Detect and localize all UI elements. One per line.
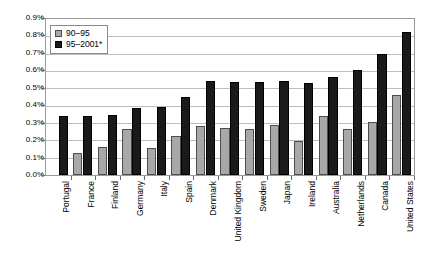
y-axis-tick-label: 0.5% <box>4 84 44 92</box>
x-axis-tick-label: Canada <box>381 181 390 211</box>
x-axis-tick-label-text: Ireland <box>308 181 317 207</box>
bar <box>220 128 229 175</box>
bar <box>255 82 264 175</box>
bar-group <box>193 19 218 175</box>
x-axis-tick-label-text: Italy <box>160 181 169 197</box>
x-axis-tick-label: Australia <box>332 181 341 214</box>
bar-group <box>316 19 341 175</box>
x-axis-tick-mark <box>193 176 194 180</box>
x-axis-tick-label-text: United Kingdom <box>234 181 243 241</box>
bar <box>157 107 166 175</box>
bar <box>206 81 215 175</box>
bar <box>196 126 205 175</box>
x-axis-tick-mark <box>218 176 219 180</box>
x-axis-tick-mark <box>71 176 72 180</box>
x-axis-tick-mark <box>267 176 268 180</box>
bar <box>73 153 82 175</box>
legend-item-1: 95–2001* <box>55 39 102 50</box>
x-axis-tick-label: Italy <box>160 181 169 197</box>
legend: 90–95 95–2001* <box>50 25 108 54</box>
x-axis-tick-label-text: United States <box>406 181 415 232</box>
bar <box>83 116 92 175</box>
bar <box>270 125 279 175</box>
legend-label-1: 95–2001* <box>66 40 102 49</box>
x-axis-tick-mark <box>316 176 317 180</box>
y-axis-tick-label: 0.7% <box>4 49 44 57</box>
bar-group <box>242 19 267 175</box>
bar-group <box>267 19 292 175</box>
x-axis-tick-mark <box>242 176 243 180</box>
bar-chart: 0.9%0.8%0.7%0.6%0.5%0.4%0.3%0.2%0.1%0.0%… <box>0 0 425 256</box>
y-axis-tick-label: 0.2% <box>4 136 44 144</box>
x-axis-tick-label-text: Spain <box>185 181 194 203</box>
bar <box>377 54 386 175</box>
x-axis-tick-mark <box>340 176 341 180</box>
x-axis-tick-mark <box>144 176 145 180</box>
bar <box>304 83 313 175</box>
x-axis-tick-label: Portugal <box>62 181 71 213</box>
x-axis-tick-label: Ireland <box>308 181 317 207</box>
y-axis-tick-label: 0.4% <box>4 101 44 109</box>
bar <box>181 97 190 175</box>
x-axis-tick-mark <box>120 176 121 180</box>
bar-group <box>291 19 316 175</box>
bar-group <box>169 19 194 175</box>
bar-group <box>218 19 243 175</box>
legend-item-0: 90–95 <box>55 28 102 39</box>
x-axis-tick-label-text: Canada <box>381 181 390 211</box>
x-axis-tick-label: Spain <box>185 181 194 203</box>
bar-group <box>340 19 365 175</box>
x-axis-tick-mark <box>291 176 292 180</box>
x-axis-tick-label-text: Denmark <box>209 181 218 215</box>
x-axis-tick-label-text: Australia <box>332 181 341 214</box>
x-axis-tick-label-text: Japan <box>283 181 292 204</box>
bar <box>294 141 303 175</box>
y-axis-tick-label: 0.0% <box>4 171 44 179</box>
bar <box>122 129 131 176</box>
x-axis-tick-mark <box>95 176 96 180</box>
bar-group <box>365 19 390 175</box>
x-axis-labels: PortugalFranceFinlandGermanyItalySpainDe… <box>46 181 414 256</box>
x-axis-tick-label: Denmark <box>209 181 218 215</box>
x-axis-tick-label-text: Germany <box>136 181 145 216</box>
bar <box>402 32 411 175</box>
x-axis-tick-mark <box>414 176 415 180</box>
x-axis-tick-label-text: France <box>87 181 96 207</box>
x-axis-tick-label: United States <box>406 181 415 232</box>
bar <box>230 82 239 175</box>
y-axis-tick-label: 0.6% <box>4 66 44 74</box>
bar <box>328 77 337 175</box>
x-axis-tick-mark <box>389 176 390 180</box>
x-axis-tick-label-text: Finland <box>111 181 120 209</box>
x-axis-tick-label-text: Netherlands <box>357 181 366 227</box>
bar <box>98 147 107 175</box>
bar <box>319 116 328 175</box>
x-axis-tick-label-text: Sweden <box>259 181 268 212</box>
legend-swatch-icon-95-2001 <box>55 41 62 48</box>
bar <box>132 108 141 175</box>
y-axis-tick-label: 0.1% <box>4 154 44 162</box>
bar <box>59 116 68 175</box>
x-axis-tick-label: Finland <box>111 181 120 209</box>
bar <box>392 95 401 175</box>
bar <box>368 122 377 175</box>
x-axis-tick-mark <box>169 176 170 180</box>
legend-swatch-icon-90-95 <box>55 30 62 37</box>
x-axis-tick-label: Sweden <box>259 181 268 212</box>
x-axis-tick-label: United Kingdom <box>234 181 243 241</box>
x-axis-tick-label: France <box>87 181 96 207</box>
y-axis-tick-label: 0.9% <box>4 14 44 22</box>
bar-group <box>144 19 169 175</box>
x-axis-tick-label-text: Portugal <box>62 181 71 213</box>
bar <box>147 148 156 175</box>
x-axis-tick-label: Netherlands <box>357 181 366 227</box>
legend-label-0: 90–95 <box>66 29 90 38</box>
x-axis-tick-mark <box>365 176 366 180</box>
bar <box>108 115 117 175</box>
bar-group <box>389 19 414 175</box>
bar <box>343 129 352 176</box>
bar <box>353 70 362 175</box>
x-axis-tick-label: Japan <box>283 181 292 204</box>
bar <box>171 136 180 175</box>
bar <box>279 81 288 175</box>
